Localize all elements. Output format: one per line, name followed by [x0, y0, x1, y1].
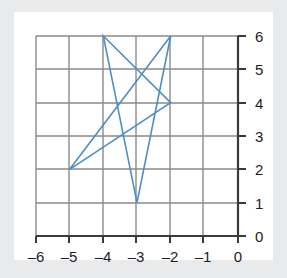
x-tick-label-0: 0	[234, 248, 242, 265]
y-tick-label-1: 1	[255, 195, 263, 212]
x-tick-label--2: –2	[162, 248, 179, 265]
y-tick-label-6: 6	[255, 28, 263, 45]
figure-root: –6 –5 –4 –3 –2 –1 0 6 5 4 3 2 1 0	[0, 0, 287, 278]
y-tick-label-2: 2	[255, 161, 263, 178]
grid-lines-horizontal	[36, 36, 238, 203]
y-tick-label-3: 3	[255, 128, 263, 145]
y-tick-label-0: 0	[255, 228, 263, 245]
star-polygon-shape	[70, 36, 171, 203]
y-tick-label-5: 5	[255, 61, 263, 78]
y-tick-label-4: 4	[255, 95, 263, 112]
y-axis-tick-labels: 6 5 4 3 2 1 0	[255, 28, 263, 245]
x-tick-label--6: –6	[28, 248, 45, 265]
x-tick-label--4: –4	[95, 248, 112, 265]
x-tick-label--5: –5	[61, 248, 78, 265]
x-tick-label--1: –1	[195, 248, 212, 265]
x-tick-label--3: –3	[128, 248, 145, 265]
coordinate-plane-chart: –6 –5 –4 –3 –2 –1 0 6 5 4 3 2 1 0	[0, 0, 287, 278]
x-axis-tick-labels: –6 –5 –4 –3 –2 –1 0	[28, 248, 243, 265]
y-axis-ticks	[238, 36, 246, 236]
